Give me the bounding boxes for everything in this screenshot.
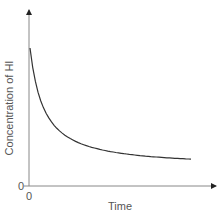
x-origin-label: 0 — [26, 190, 32, 202]
y-origin-label: 0 — [18, 180, 24, 192]
y-axis-label: Concentration of HI — [3, 61, 15, 156]
decay-curve — [30, 48, 191, 159]
x-axis-label: Time — [108, 200, 132, 212]
chart: 0 0 Time Concentration of HI — [0, 0, 222, 217]
